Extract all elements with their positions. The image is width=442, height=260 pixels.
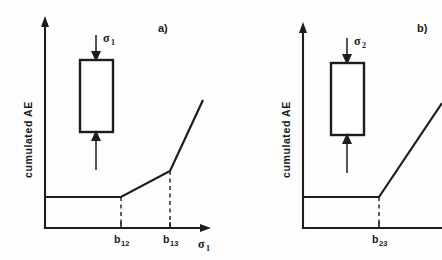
panel-a-b13-main: b: [163, 233, 169, 245]
panel-a-load-label: σ: [103, 31, 110, 45]
panel-a: cumulated AE a) σ 1: [22, 16, 211, 253]
panel-a-b12-sub: 12: [121, 239, 129, 248]
panel-a-tag: a): [158, 22, 168, 34]
panel-a-y-axis-label: cumulated AE: [22, 101, 34, 178]
panel-b: cumulated AE b) σ 2: [280, 22, 442, 248]
figure-canvas: cumulated AE a) σ 1: [0, 0, 442, 260]
panel-a-x-axis-label: σ 1: [198, 237, 210, 253]
panel-a-specimen-diagram: σ 1: [80, 31, 115, 170]
panel-b-ae-curve: [304, 103, 442, 197]
panel-a-ae-curve: [46, 100, 203, 197]
panel-a-x-axis: [45, 224, 211, 232]
panel-a-breakpoint-label-b12: b 12: [114, 233, 129, 248]
figure-root: cumulated AE a) σ 1: [0, 0, 442, 260]
panel-b-tag: b): [417, 22, 428, 34]
panel-b-load-label: σ: [354, 34, 361, 48]
panel-a-breakpoint-label-b13: b 13: [163, 233, 178, 248]
panel-b-y-axis-label: cumulated AE: [280, 101, 292, 178]
panel-a-x-axis-label-sub: 1: [206, 244, 210, 253]
panel-a-load-label-sub: 1: [111, 38, 115, 47]
panel-a-specimen-rect: [80, 60, 113, 132]
panel-a-b13-sub: 13: [170, 239, 178, 248]
panel-a-b12-main: b: [114, 233, 120, 245]
panel-a-x-axis-label-main: σ: [198, 237, 205, 251]
panel-b-b23-sub: 23: [379, 239, 387, 248]
panel-b-load-label-sub: 2: [362, 41, 366, 50]
panel-b-specimen-diagram: σ 2: [331, 34, 366, 173]
panel-b-specimen-rect: [331, 63, 364, 135]
panel-b-breakpoint-label-b23: b 23: [372, 233, 387, 248]
panel-b-b23-main: b: [372, 233, 378, 245]
